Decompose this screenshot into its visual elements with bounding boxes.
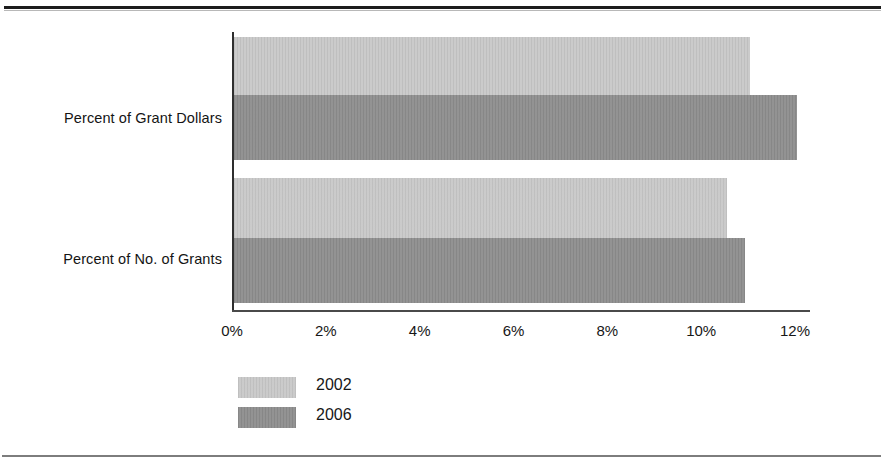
- legend-label-2002: 2002: [316, 376, 352, 394]
- x-tick-label-4: 8%: [577, 322, 637, 339]
- x-tick-label-3: 6%: [484, 322, 544, 339]
- x-tick-label-2: 4%: [390, 322, 450, 339]
- category-label-no-of-grants: Percent of No. of Grants: [0, 251, 222, 267]
- page-rule-bottom: [2, 455, 881, 457]
- legend-label-2006: 2006: [316, 406, 352, 424]
- chart-figure: Percent of Grant Dollars Percent of No. …: [0, 0, 885, 466]
- plot-area: [232, 32, 810, 312]
- legend-swatch-2002: [238, 377, 296, 398]
- bar-grant-dollars-2002: [234, 37, 750, 95]
- legend-swatch-2006: [238, 407, 296, 428]
- x-tick-label-5: 10%: [671, 322, 731, 339]
- x-tick-label-1: 2%: [296, 322, 356, 339]
- page-rule-top-hairline: [4, 10, 881, 11]
- x-tick-label-6: 12%: [765, 322, 825, 339]
- bar-no-of-grants-2006: [234, 238, 745, 303]
- category-label-grant-dollars: Percent of Grant Dollars: [0, 110, 222, 126]
- bar-no-of-grants-2002: [234, 178, 727, 238]
- bar-grant-dollars-2006: [234, 95, 797, 160]
- page-rule-top: [4, 6, 881, 9]
- x-axis-line: [232, 310, 810, 312]
- x-tick-label-0: 0%: [202, 322, 262, 339]
